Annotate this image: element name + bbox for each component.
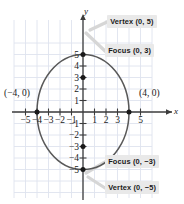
y-tick-label: −2: [69, 130, 79, 140]
y-tick-label: 2: [74, 84, 79, 94]
x-tick-label: −5: [20, 115, 30, 125]
x-tick-label: −2: [55, 115, 65, 125]
point-vertex-top: [81, 52, 86, 57]
x-tick-label: 5: [138, 115, 143, 125]
point-focus-bottom: [81, 144, 86, 149]
point-vertex-bottom: [81, 167, 86, 172]
x-tick-label: −4: [32, 115, 42, 125]
y-axis-label: y: [84, 7, 88, 16]
y-tick-label: −5: [69, 165, 79, 175]
y-tick-label: 5: [74, 50, 79, 60]
y-tick-label: −3: [69, 142, 79, 152]
x-tick-label: 3: [115, 115, 120, 125]
covertex-left-label: (−4, 0): [4, 89, 30, 99]
y-tick-label: −1: [69, 119, 79, 129]
callout-vertex-bottom: Vertex (0, −5): [105, 181, 159, 194]
point-covertex-right: [127, 110, 132, 115]
callout-focus-top: Focus (0, 3): [105, 44, 154, 57]
callout-focus-bottom: Focus (0, −3): [105, 155, 159, 168]
point-focus-top: [81, 75, 86, 80]
x-tick-label: 2: [104, 115, 109, 125]
x-tick-label: 1: [92, 115, 97, 125]
ellipse-graph-figure: −5 −4 −3 −2 −1 1 2 3 5 5 4 3 2 1 −1 −2 −…: [0, 0, 184, 204]
point-covertex-left: [35, 110, 40, 115]
covertex-right-label: (4, 0): [139, 89, 160, 99]
x-axis-label: x: [174, 107, 178, 116]
y-tick-label: 1: [74, 96, 79, 106]
plot-canvas: −5 −4 −3 −2 −1 1 2 3 5 5 4 3 2 1 −1 −2 −…: [0, 0, 184, 204]
y-tick-label: 4: [74, 61, 79, 71]
callout-vertex-top: Vertex (0, 5): [107, 15, 157, 28]
x-axis-arrow: [166, 109, 172, 115]
x-tick-label: −3: [43, 115, 53, 125]
y-tick-label: −4: [69, 153, 79, 163]
y-tick-label: 3: [74, 73, 79, 83]
